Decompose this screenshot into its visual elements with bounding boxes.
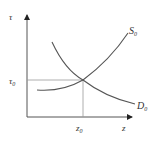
z0-label: z0	[75, 123, 83, 134]
demand-label: D0	[136, 100, 147, 112]
supply-label: S0	[129, 25, 137, 37]
supply-curve	[37, 33, 128, 90]
x-axis-label: z	[121, 123, 126, 133]
tau0-label: τ0	[9, 76, 15, 87]
y-axis-label: τ	[9, 12, 13, 22]
supply-demand-diagram: τ z τ0 z0 S0 D0	[0, 0, 161, 142]
demand-curve	[52, 42, 135, 104]
